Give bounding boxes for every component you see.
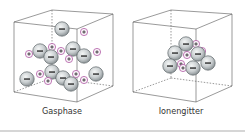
caption-gasphase: Gasphase xyxy=(7,106,117,116)
ionengitter-ions xyxy=(163,37,215,75)
ionengitter-box xyxy=(133,10,232,102)
caption-ionengitter: Ionengitter xyxy=(126,106,236,116)
divider xyxy=(0,130,245,132)
gasphase-ions xyxy=(20,22,103,91)
